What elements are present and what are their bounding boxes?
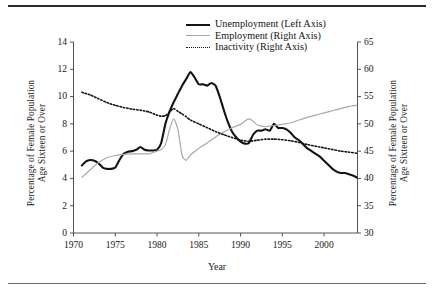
series-line-employment [82,105,358,177]
right-tick-label: 55 [364,91,382,101]
left-tick-label: 0 [51,228,67,238]
right-tick-label: 50 [364,119,382,129]
x-tick-label: 1985 [179,240,219,250]
left-tick-label: 10 [51,91,67,101]
x-tick-label: 1990 [221,240,261,250]
right-tick-label: 30 [364,228,382,238]
right-tick-label: 35 [364,201,382,211]
left-tick-label: 14 [51,37,67,47]
x-tick-label: 1995 [262,240,302,250]
right-tick-label: 40 [364,173,382,183]
right-tick-label: 65 [364,37,382,47]
left-tick-label: 6 [51,146,67,156]
x-tick-label: 1975 [95,240,135,250]
x-tick-label: 1980 [137,240,177,250]
left-tick-label: 4 [51,173,67,183]
left-tick-label: 8 [51,119,67,129]
x-tick-label: 1970 [54,240,94,250]
left-tick-label: 12 [51,64,67,74]
series-line-unemployment [82,72,358,178]
right-tick-label: 60 [364,64,382,74]
left-tick-label: 2 [51,201,67,211]
x-tick-label: 2000 [304,240,344,250]
right-tick-label: 45 [364,146,382,156]
series-line-inactivity [82,92,358,153]
figure-container: Percentage of Female Population Age Sixt… [0,0,434,294]
